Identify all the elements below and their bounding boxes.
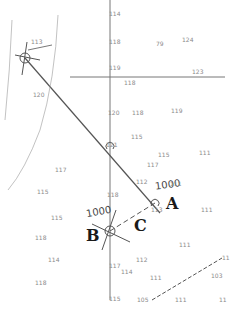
sounding-label: 115 xyxy=(51,215,62,221)
sounding-label: 114 xyxy=(121,269,132,275)
sounding-label: 119 xyxy=(109,65,120,71)
sounding-label: 79 xyxy=(156,41,164,47)
sounding-label: 118 xyxy=(124,80,135,86)
point-b-label: B xyxy=(86,228,100,244)
sounding-label: 115 xyxy=(131,134,142,140)
sounding-label: 105 xyxy=(137,297,148,303)
sounding-label: 111 xyxy=(201,207,212,213)
sounding-label: 123 xyxy=(192,69,203,75)
sounding-label: 118 xyxy=(132,110,143,116)
sounding-label: 115 xyxy=(109,296,120,302)
sounding-label: 11 xyxy=(222,255,230,261)
sounding-label: 114 xyxy=(48,257,59,263)
sounding-label: 111 xyxy=(179,242,190,248)
sounding-label: 113 xyxy=(151,207,162,213)
sounding-label: 120 xyxy=(33,92,44,98)
sounding-label: 111 xyxy=(170,181,181,187)
sounding-label: 119 xyxy=(171,108,182,114)
sounding-label: 118 xyxy=(107,192,118,198)
sounding-label: 124 xyxy=(182,37,193,43)
sounding-label: 120 xyxy=(108,110,119,116)
sounding-label: 111 xyxy=(199,150,210,156)
sounding-label: 118 xyxy=(35,235,46,241)
sounding-label: 114 xyxy=(109,11,120,17)
sounding-label: 103 xyxy=(211,273,222,279)
sounding-label: 117 xyxy=(55,167,66,173)
sounding-label: 117 xyxy=(147,162,158,168)
sounding-label: 118 xyxy=(109,39,120,45)
sounding-label: 113 xyxy=(31,39,42,45)
sounding-label: 112 xyxy=(136,257,147,263)
point-c-label: C xyxy=(134,218,147,234)
sounding-label: 11 xyxy=(219,297,227,303)
sounding-label: 117 xyxy=(109,263,120,269)
point-a-label: A xyxy=(166,196,178,212)
sounding-label: 115 xyxy=(37,189,48,195)
sounding-label: 121 xyxy=(106,142,117,148)
nautical-chart: A B C 1000 1000 114791241131181191231181… xyxy=(0,0,235,311)
sounding-label: 111 xyxy=(150,275,161,281)
sounding-label: 118 xyxy=(35,280,46,286)
sounding-label: 112 xyxy=(136,179,147,185)
sounding-label: 111 xyxy=(175,297,186,303)
sounding-label: 115 xyxy=(158,152,169,158)
